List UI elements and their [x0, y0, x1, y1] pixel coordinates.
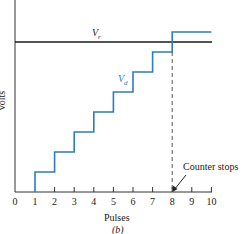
vr-label: Vr [92, 28, 101, 42]
x-axis-label: Pulses [104, 213, 130, 223]
vd-label: Vd [118, 74, 128, 88]
x-tick-label: 1 [33, 196, 38, 207]
x-tick-label: 8 [170, 196, 175, 207]
x-tick-label: 7 [150, 196, 155, 207]
x-tick-label: 9 [189, 196, 194, 207]
x-tick-label: 3 [72, 196, 77, 207]
figure-caption: (b) [112, 225, 124, 234]
x-tick-label: 4 [91, 196, 96, 207]
x-tick-label: 2 [52, 196, 57, 207]
counter-stops-label: Counter stops [183, 162, 238, 172]
x-ticks [55, 187, 212, 192]
y-axis-label: Volts [0, 91, 7, 111]
x-tick-label: 10 [206, 196, 216, 207]
x-tick-label: 6 [131, 196, 136, 207]
x-tick-label: 0 [13, 196, 18, 207]
x-tick-label: 5 [111, 196, 116, 207]
